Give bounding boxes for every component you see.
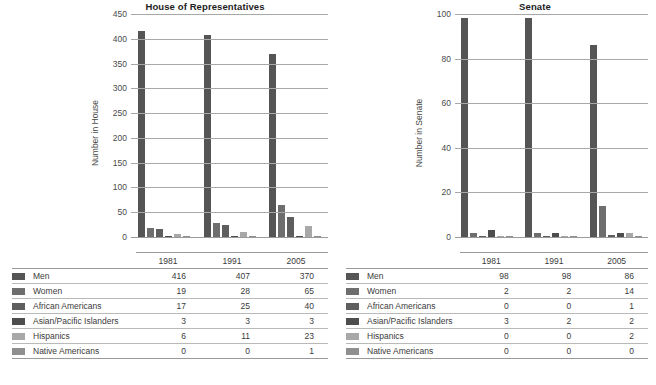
table-cell-value: 0 bbox=[136, 344, 200, 359]
blank-cell bbox=[362, 253, 460, 269]
bar-group-1991 bbox=[519, 14, 583, 237]
bar bbox=[204, 35, 211, 237]
legend-swatch-cell bbox=[12, 284, 28, 299]
house-data-table: 198119912005Men416407370Women192865Afric… bbox=[12, 252, 328, 359]
table-row: Hispanics61123 bbox=[12, 329, 328, 344]
table-cell-value: 19 bbox=[136, 284, 200, 299]
legend-swatch-cell bbox=[346, 284, 362, 299]
row-label: Men bbox=[28, 269, 136, 284]
bar bbox=[296, 236, 303, 238]
column-header-year: 1991 bbox=[200, 253, 264, 269]
blank-cell bbox=[346, 253, 362, 269]
bar bbox=[174, 234, 181, 237]
table-cell-value: 407 bbox=[200, 269, 264, 284]
y-tick-label: 200 bbox=[113, 133, 127, 143]
table-cell-value: 3 bbox=[136, 314, 200, 329]
house-y-tick-labels: 450400350300250200150100500 bbox=[102, 14, 130, 252]
bar bbox=[470, 233, 477, 237]
table-cell-value: 0 bbox=[460, 329, 523, 344]
bar bbox=[156, 229, 163, 237]
y-tick-label: 20 bbox=[442, 187, 451, 197]
table-cell-value: 11 bbox=[200, 329, 264, 344]
legend-swatch-cell bbox=[346, 314, 362, 329]
row-label-text: Hispanics bbox=[362, 331, 404, 341]
table-row: African Americans001 bbox=[346, 299, 648, 314]
legend-swatch-icon bbox=[12, 288, 25, 295]
legend-swatch-icon bbox=[346, 318, 359, 325]
row-label: Hispanics bbox=[362, 329, 460, 344]
row-label-text: Native Americans bbox=[28, 346, 99, 356]
table-cell-value: 23 bbox=[264, 329, 328, 344]
bar bbox=[287, 217, 294, 237]
y-tick-label: 400 bbox=[113, 34, 127, 44]
legend-swatch-icon bbox=[12, 318, 25, 325]
bar bbox=[617, 233, 624, 237]
bar bbox=[165, 236, 172, 238]
table-cell-value: 25 bbox=[200, 299, 264, 314]
table-cell-value: 2 bbox=[585, 329, 648, 344]
bar bbox=[231, 236, 238, 238]
y-tick-label: 100 bbox=[113, 182, 127, 192]
table-cell-value: 0 bbox=[523, 299, 586, 314]
y-tick-label: 60 bbox=[442, 98, 451, 108]
gridline bbox=[131, 64, 328, 65]
y-tick-label: 40 bbox=[442, 143, 451, 153]
y-tick-label: 50 bbox=[118, 207, 127, 217]
table-cell-value: 0 bbox=[585, 344, 648, 359]
legend-swatch-cell bbox=[12, 344, 28, 359]
y-tick-label: 350 bbox=[113, 59, 127, 69]
legend-swatch-cell bbox=[346, 269, 362, 284]
gridline bbox=[455, 14, 648, 15]
gridline bbox=[131, 187, 328, 188]
senate-chart-title: Senate bbox=[336, 0, 656, 14]
legend-swatch-icon bbox=[346, 348, 359, 355]
bar bbox=[534, 233, 541, 237]
table-cell-value: 3 bbox=[200, 314, 264, 329]
row-label: Hispanics bbox=[28, 329, 136, 344]
row-label-text: African Americans bbox=[362, 301, 436, 311]
gridline bbox=[131, 212, 328, 213]
y-tick-label: 0 bbox=[446, 232, 451, 242]
row-label-text: Men bbox=[28, 271, 50, 281]
table-cell-value: 17 bbox=[136, 299, 200, 314]
blank-cell bbox=[28, 253, 136, 269]
gridline bbox=[131, 14, 328, 15]
y-tick-label: 150 bbox=[113, 158, 127, 168]
row-label: Women bbox=[28, 284, 136, 299]
bar bbox=[525, 18, 532, 237]
table-cell-value: 2 bbox=[585, 314, 648, 329]
table-cell-value: 1 bbox=[264, 344, 328, 359]
senate-bar-groups bbox=[455, 14, 648, 237]
bar-group-1981 bbox=[455, 14, 519, 237]
legend-swatch-cell bbox=[12, 314, 28, 329]
blank-cell bbox=[12, 253, 28, 269]
bar bbox=[506, 236, 513, 237]
y-tick-label: 450 bbox=[113, 9, 127, 19]
table-cell-value: 416 bbox=[136, 269, 200, 284]
legend-swatch-icon bbox=[346, 288, 359, 295]
house-plot-area: Number in House 450400350300250200150100… bbox=[0, 14, 336, 252]
bar bbox=[305, 226, 312, 237]
y-tick-label: 100 bbox=[437, 9, 451, 19]
table-year-header-row: 198119912005 bbox=[12, 253, 328, 269]
senate-y-axis-label: Number in Senate bbox=[412, 14, 426, 252]
house-y-axis-label: Number in House bbox=[88, 14, 102, 252]
bar bbox=[183, 236, 190, 237]
row-label: Men bbox=[362, 269, 460, 284]
row-label: African Americans bbox=[28, 299, 136, 314]
bar bbox=[570, 236, 577, 237]
table-cell-value: 98 bbox=[523, 269, 586, 284]
row-label-text: Asian/Pacific Islanders bbox=[362, 316, 453, 326]
table-row: Hispanics002 bbox=[346, 329, 648, 344]
legend-swatch-icon bbox=[12, 333, 25, 340]
column-header-year: 2005 bbox=[264, 253, 328, 269]
y-tick-label: 300 bbox=[113, 83, 127, 93]
table-row: Women2214 bbox=[346, 284, 648, 299]
house-table: 198119912005Men416407370Women192865Afric… bbox=[12, 252, 328, 359]
bar bbox=[590, 45, 597, 237]
row-label: Asian/Pacific Islanders bbox=[28, 314, 136, 329]
house-panel: House of Representatives Number in House… bbox=[0, 0, 336, 385]
gridline bbox=[131, 88, 328, 89]
figure-root: House of Representatives Number in House… bbox=[0, 0, 656, 385]
legend-swatch-cell bbox=[346, 299, 362, 314]
